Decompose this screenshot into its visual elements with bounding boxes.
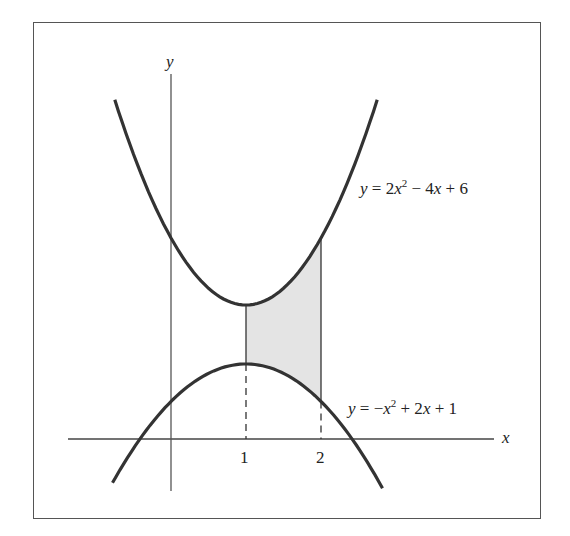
- lower-equation-label: y = −x2 + 2x + 1: [348, 397, 457, 419]
- tick-label-1: 1: [240, 448, 249, 468]
- upper-parabola: [115, 100, 377, 305]
- upper-equation-label: y = 2x2 − 4x + 6: [360, 177, 468, 199]
- y-axis-label: y: [166, 52, 174, 72]
- lower-parabola: [113, 364, 383, 488]
- plot-area: [0, 0, 570, 536]
- shaded-area: [246, 238, 321, 402]
- x-axis-label: x: [502, 428, 510, 448]
- tick-label-2: 2: [316, 448, 325, 468]
